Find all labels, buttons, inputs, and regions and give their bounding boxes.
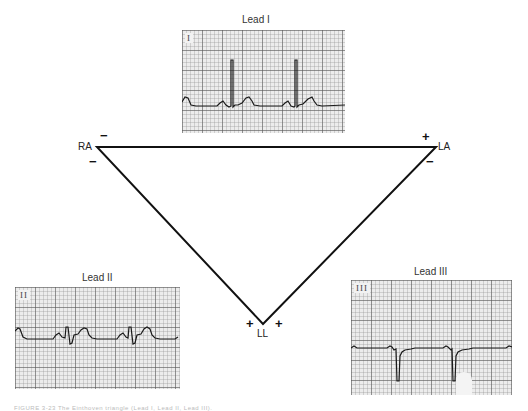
la-sign-bottom: −: [426, 155, 434, 168]
lead-iii-waveform: [351, 280, 512, 395]
lead-iii-title: Lead III: [414, 266, 447, 277]
lead-ii-title: Lead II: [82, 272, 113, 283]
ll-sign-right: +: [275, 317, 283, 330]
ll-label: LL: [257, 328, 268, 339]
ra-sign-top: −: [100, 129, 108, 142]
scan-artifact: [456, 372, 472, 395]
la-label: LA: [438, 141, 450, 152]
lead-ii-waveform: [15, 287, 180, 389]
lead-iii-strip: III: [351, 280, 512, 395]
lead-ii-strip: II: [15, 287, 180, 389]
ra-label: RA: [78, 141, 92, 152]
figure-caption: FIGURE 3-23 The Einthoven triangle (Lead…: [14, 405, 212, 411]
la-sign-top: +: [422, 130, 430, 143]
ra-sign-bottom: −: [89, 155, 97, 168]
ll-sign-left: +: [246, 317, 254, 330]
